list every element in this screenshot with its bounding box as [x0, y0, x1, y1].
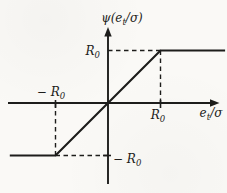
- figure-canvas: ψ(et/σ) et/σ R0 − R0 R0 − R0: [0, 0, 227, 193]
- psi-function-plot: ψ(et/σ) et/σ R0 − R0 R0 − R0: [0, 0, 227, 193]
- x-neg-tick-label-main: − R: [37, 85, 60, 99]
- y-neg-tick-label: − R0: [113, 152, 142, 168]
- x-axis-label-tail: /σ: [209, 106, 223, 120]
- y-pos-tick-label: R0: [85, 44, 101, 60]
- y-axis-arrow-icon: [104, 27, 111, 37]
- y-axis-label-tail: /σ): [125, 11, 143, 25]
- y-pos-tick-label-subscript: 0: [95, 50, 101, 60]
- x-axis-label-main: e: [200, 106, 207, 120]
- x-pos-tick-label-main: R: [150, 108, 160, 122]
- y-pos-tick-label-main: R: [85, 44, 95, 58]
- x-neg-tick-label-subscript: 0: [60, 91, 66, 101]
- y-axis-label-main: ψ(e: [101, 11, 122, 25]
- x-pos-tick-label-subscript: 0: [160, 114, 166, 124]
- x-pos-tick-label: R0: [150, 108, 166, 124]
- y-neg-tick-label-subscript: 0: [136, 158, 142, 168]
- y-neg-tick-label-main: − R: [113, 152, 136, 166]
- x-axis-label: et/σ: [200, 106, 224, 122]
- x-neg-tick-label: − R0: [37, 85, 66, 101]
- y-axis-label: ψ(et/σ): [101, 11, 143, 27]
